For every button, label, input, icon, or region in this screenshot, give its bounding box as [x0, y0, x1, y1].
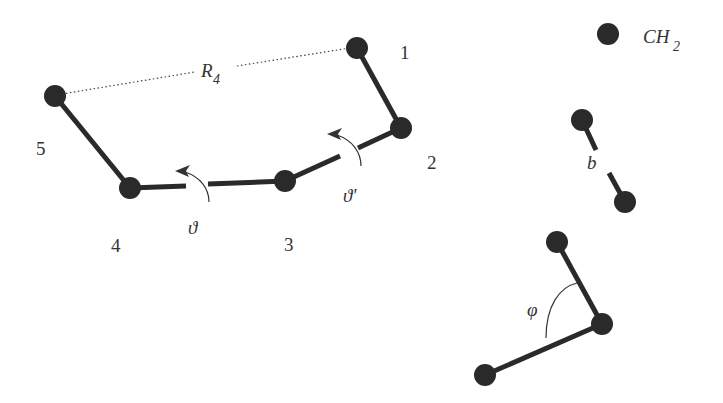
atom-label-2: 2	[427, 152, 437, 173]
diagram-canvas: 1 2 3 4 5 R 4 ϑ ϑ' CH 2 b φ	[0, 0, 723, 403]
end-to-end-label: R	[200, 60, 213, 81]
chain-bonds	[55, 48, 401, 188]
atom-3	[274, 170, 296, 192]
legend-atom	[597, 23, 619, 45]
bond-angle-arc	[546, 283, 577, 338]
bond-angle-atom-a	[546, 231, 568, 253]
torsion-label-theta: ϑ	[188, 217, 199, 238]
arrowhead-icon	[175, 165, 190, 177]
end-to-end-vector	[62, 72, 195, 94]
polymer-chain-diagram: 1 2 3 4 5 R 4 ϑ ϑ' CH 2 b φ	[0, 0, 723, 403]
torsion-arrows	[185, 135, 361, 202]
bond-1-2	[357, 48, 401, 128]
end-to-end-vector	[237, 48, 350, 66]
legend-atom-label: CH	[643, 26, 671, 47]
atom-5	[44, 85, 66, 107]
bond-angle-atom-b	[474, 364, 496, 386]
atom-label-5: 5	[36, 138, 46, 159]
arrowhead-icon	[327, 128, 342, 140]
atom-label-1: 1	[400, 42, 410, 63]
bond-angle-atom-center	[591, 313, 613, 335]
bond-angle-label: φ	[527, 299, 538, 320]
legend-atom-subscript: 2	[673, 39, 680, 54]
bond-3-4a	[208, 181, 285, 184]
atom-label-4: 4	[111, 235, 121, 256]
bond-4-5	[55, 96, 130, 188]
atom-1	[346, 37, 368, 59]
atom-label-3: 3	[284, 234, 294, 255]
torsion-label-theta-prime: ϑ'	[343, 185, 357, 206]
chain-atoms	[44, 37, 412, 199]
bond-length-label: b	[587, 152, 597, 173]
end-to-end-subscript: 4	[213, 72, 220, 87]
arrowheads	[175, 128, 342, 177]
atom-2	[390, 117, 412, 139]
bond-angle-example	[485, 242, 602, 375]
bond-length-atom-a	[571, 109, 593, 131]
atom-4	[119, 177, 141, 199]
bond-length-atom-b	[614, 191, 636, 213]
